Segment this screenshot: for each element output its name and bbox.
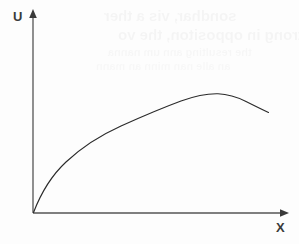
y-axis-label: U <box>13 10 22 23</box>
x-axis-label: X <box>276 221 285 234</box>
x-axis-group <box>33 209 289 217</box>
x-axis-arrowhead-icon <box>280 209 289 217</box>
utility-curve <box>34 94 269 213</box>
y-axis-arrowhead-icon <box>29 9 37 18</box>
plot-area <box>0 0 299 244</box>
graph-figure: sondhar, vis a ther strong in oppositon,… <box>0 0 299 244</box>
y-axis-group <box>29 9 37 213</box>
